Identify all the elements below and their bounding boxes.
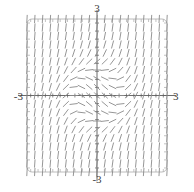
slope-segment	[50, 134, 51, 141]
slope-segment	[112, 15, 113, 22]
slope-segment	[104, 160, 105, 167]
slope-segment	[64, 67, 67, 74]
slope-segment	[58, 151, 59, 158]
axis-label-right: 3	[173, 91, 193, 102]
slope-segment	[125, 101, 130, 106]
slope-segment	[34, 49, 35, 56]
slope-segment	[151, 100, 152, 107]
slope-segment	[120, 151, 121, 158]
slope-segment	[143, 143, 144, 150]
slope-segment	[73, 160, 74, 167]
slope-segment	[27, 151, 28, 158]
slope-segment	[63, 84, 68, 89]
slope-segment	[109, 112, 116, 113]
slope-segment	[151, 151, 152, 158]
slope-segment	[128, 15, 129, 22]
slope-segment	[159, 151, 160, 158]
slope-segment	[143, 49, 144, 56]
slope-segment	[70, 104, 77, 105]
slope-segment	[119, 134, 121, 141]
slope-segment	[57, 109, 60, 116]
axis-label-bottom: -3	[0, 174, 194, 185]
slope-segment	[151, 32, 152, 39]
slope-segment	[71, 67, 76, 72]
slope-segment	[127, 49, 129, 56]
slope-segment	[159, 143, 160, 150]
slope-segment	[109, 78, 116, 79]
slope-segment	[50, 58, 51, 65]
slope-segment	[127, 41, 128, 48]
slope-segment	[34, 109, 35, 116]
slope-segment	[49, 75, 51, 82]
slope-segment	[64, 118, 67, 125]
slope-segment	[101, 70, 108, 71]
slope-segment	[126, 118, 129, 125]
slope-segment	[120, 160, 121, 167]
slope-segment	[73, 41, 75, 48]
slope-segment	[126, 67, 129, 74]
slope-segment	[49, 100, 51, 107]
slope-segment	[118, 118, 123, 123]
slope-segment	[86, 85, 92, 90]
slope-segment	[135, 134, 136, 141]
slope-segment	[143, 66, 145, 73]
slope-segment	[88, 143, 90, 150]
slope-segment	[134, 84, 137, 91]
slope-segment	[65, 58, 68, 65]
slope-segment	[27, 41, 28, 48]
slope-segment	[159, 126, 160, 133]
slope-segment	[128, 160, 129, 167]
slope-segment	[42, 58, 43, 65]
slope-segment	[134, 101, 137, 108]
slope-segment	[88, 151, 89, 158]
slope-segment	[134, 75, 137, 82]
slope-segment	[86, 121, 93, 122]
slope-segment	[151, 66, 152, 73]
slope-segment	[167, 41, 168, 48]
slope-segment	[159, 24, 160, 31]
slope-segment	[117, 111, 124, 114]
slope-segment	[73, 15, 74, 22]
slope-segment	[103, 50, 106, 57]
slope-segment	[73, 32, 74, 39]
slope-segment	[104, 41, 106, 48]
slope-segment	[151, 126, 152, 133]
slope-segment	[57, 126, 59, 133]
slope-segment	[65, 126, 68, 133]
slope-segment	[102, 59, 107, 64]
slope-segment	[65, 160, 66, 167]
slope-segment	[135, 126, 137, 133]
slope-segment	[89, 24, 90, 31]
slope-segment	[128, 32, 129, 39]
axis-label-top: 3	[0, 3, 194, 14]
slope-segment	[50, 151, 51, 158]
slope-segment	[50, 160, 51, 167]
slope-segment	[42, 24, 43, 31]
axis-label-left: -3	[1, 91, 23, 102]
slope-segment	[136, 160, 137, 167]
slope-segment	[143, 41, 144, 48]
slope-segment	[104, 143, 106, 150]
slope-segment	[49, 83, 51, 90]
slope-segment	[73, 143, 75, 150]
slope-segment	[159, 49, 160, 56]
slope-segment	[110, 59, 114, 65]
slope-segment	[143, 32, 144, 39]
slope-segment	[110, 127, 114, 133]
slope-segment	[101, 77, 108, 80]
slope-segment	[159, 32, 160, 39]
slope-segment	[143, 134, 144, 141]
slope-segment	[73, 24, 74, 31]
slope-segment	[112, 151, 113, 158]
slope-segment	[86, 77, 93, 80]
slope-segment	[65, 32, 66, 39]
slope-segment	[65, 24, 66, 31]
slope-segment	[80, 135, 83, 142]
slope-segment	[167, 49, 168, 56]
slope-segment	[135, 32, 136, 39]
slope-segment	[101, 111, 108, 114]
slope-segment	[65, 49, 67, 56]
slope-segment	[73, 49, 75, 56]
slope-segment	[42, 49, 43, 56]
slope-segment	[86, 70, 93, 71]
